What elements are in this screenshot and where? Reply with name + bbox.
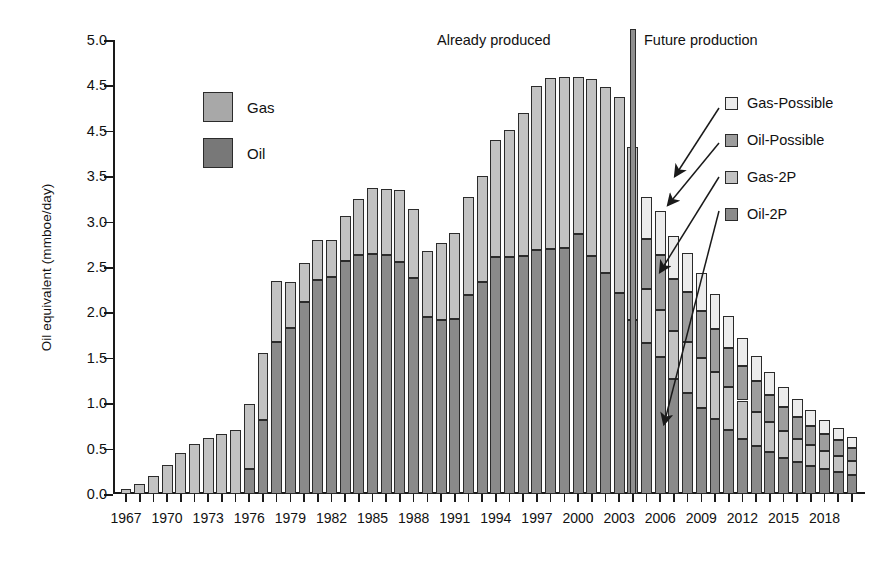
legend-historical-label-gas: Gas <box>247 99 275 116</box>
legend-forecast-item-gas2p[interactable]: Gas-2P <box>725 169 833 185</box>
bar-segment-oil2p <box>353 255 364 494</box>
bar-segment-gaspossible <box>847 437 858 448</box>
bar-segment-oil2p <box>710 419 721 494</box>
bar-1974 <box>216 434 227 494</box>
bar-1984 <box>353 199 364 494</box>
bar-segment-oil2p <box>723 430 734 494</box>
bar-2012 <box>737 338 748 494</box>
bar-2005 <box>641 197 652 494</box>
bar-segment-oil2p <box>668 379 679 494</box>
bar-segment-oilpossible <box>655 255 666 309</box>
bar-1970 <box>162 465 173 494</box>
x-axis-tick-label: 2003 <box>604 510 635 526</box>
x-axis-tick-mark <box>701 494 703 502</box>
y-axis-tick-label: 4.5 <box>87 123 107 139</box>
bar-segment-gas2p <box>847 461 858 475</box>
bar-segment-oilpossible <box>751 381 762 412</box>
bar-segment-gas2p <box>655 310 666 357</box>
x-axis-tick-mark <box>221 494 223 502</box>
y-axis-tick-label: 0.0 <box>87 486 107 502</box>
bar-segment-oil2p <box>490 257 501 494</box>
bar-segment-oilpossible <box>682 292 693 342</box>
bar-1992 <box>463 197 474 494</box>
bar-segment-oil2p <box>381 255 392 494</box>
bar-segment-oilpossible <box>723 348 734 387</box>
legend-forecast-label-gas2p: Gas-2P <box>747 169 796 185</box>
legend-forecast-label-oilpossible: Oil-Possible <box>747 132 824 148</box>
bar-2016 <box>792 399 803 494</box>
x-axis-tick-mark <box>440 494 442 502</box>
x-axis-tick-label: 1997 <box>521 510 552 526</box>
bar-segment-gas2p <box>518 113 529 256</box>
bar-segment-oil2p <box>312 280 323 494</box>
legend-forecast-item-oil2p[interactable]: Oil-2P <box>725 206 833 222</box>
bar-segment-gas2p <box>682 342 693 393</box>
bar-1985 <box>367 188 378 494</box>
bar-1981 <box>312 240 323 494</box>
bar-segment-oil2p <box>258 420 269 494</box>
bar-segment-oilpossible <box>641 239 652 289</box>
x-axis-tick-label: 1979 <box>275 510 306 526</box>
bar-segment-gas2p <box>614 97 625 293</box>
annotation-future-production: Future production <box>644 32 758 48</box>
bar-segment-gaspossible <box>641 197 652 239</box>
bar-segment-oil2p <box>340 261 351 494</box>
bar-segment-gaspossible <box>668 236 679 279</box>
bar-segment-gas2p <box>175 453 186 494</box>
bar-1995 <box>504 130 515 494</box>
bar-segment-oil2p <box>422 317 433 494</box>
bar-1989 <box>422 251 433 494</box>
bar-segment-oil2p <box>244 469 255 494</box>
x-axis-tick-label: 1985 <box>357 510 388 526</box>
x-axis-tick-mark <box>427 494 429 502</box>
x-axis-tick-mark <box>714 494 716 502</box>
x-axis-tick-mark <box>550 494 552 502</box>
bar-segment-gas2p <box>340 216 351 260</box>
x-axis-tick-mark <box>399 494 401 502</box>
bar-segment-oil2p <box>573 234 584 494</box>
x-axis-tick-label: 1970 <box>152 510 183 526</box>
x-axis-tick-mark <box>358 494 360 502</box>
y-axis-title: Oil equivalent (mmboe/day) <box>39 118 54 418</box>
bar-2017 <box>805 410 816 494</box>
bar-segment-oil2p <box>545 249 556 494</box>
bar-1973 <box>203 438 214 494</box>
x-axis-tick-mark <box>372 494 374 502</box>
bar-segment-oil2p <box>367 254 378 494</box>
bar-segment-oil2p <box>641 343 652 494</box>
x-axis-tick-label: 2015 <box>768 510 799 526</box>
bar-segment-gas2p <box>792 439 803 463</box>
y-axis-tick-label: 5.0 <box>87 32 107 48</box>
bar-1969 <box>148 476 159 494</box>
bar-segment-oil2p <box>751 446 762 494</box>
legend-historical-item-gas[interactable]: Gas <box>203 92 275 122</box>
bar-1975 <box>230 430 241 494</box>
bar-segment-oil2p <box>449 319 460 494</box>
bar-segment-oil2p <box>408 278 419 494</box>
x-axis-tick-mark <box>303 494 305 502</box>
x-axis-tick-mark <box>276 494 278 502</box>
legend-historical-item-oil[interactable]: Oil <box>203 138 275 168</box>
bar-segment-gas2p <box>189 444 200 494</box>
legend-forecast-item-oilpossible[interactable]: Oil-Possible <box>725 132 833 148</box>
bar-segment-gaspossible <box>751 356 762 381</box>
legend-forecast-item-gaspossible[interactable]: Gas-Possible <box>725 95 833 111</box>
bar-segment-oilpossible <box>778 407 789 432</box>
bar-2019 <box>833 428 844 494</box>
bar-2015 <box>778 387 789 494</box>
bar-segment-gas2p <box>326 240 337 277</box>
bar-1983 <box>340 216 351 494</box>
x-axis-tick-mark <box>564 494 566 502</box>
bar-segment-gaspossible <box>655 211 666 255</box>
x-axis-tick-mark <box>385 494 387 502</box>
legend-historical-label-oil: Oil <box>247 145 265 162</box>
bar-segment-gaspossible <box>819 420 830 435</box>
y-axis-tick-label: 2.5 <box>87 259 107 275</box>
x-axis-tick-mark <box>481 494 483 502</box>
bar-2009 <box>696 273 707 494</box>
bar-segment-gas2p <box>299 263 310 301</box>
bar-segment-gaspossible <box>696 273 707 310</box>
bar-segment-gas2p <box>641 289 652 343</box>
x-axis-tick-mark <box>344 494 346 502</box>
bar-segment-oilpossible <box>737 366 748 401</box>
